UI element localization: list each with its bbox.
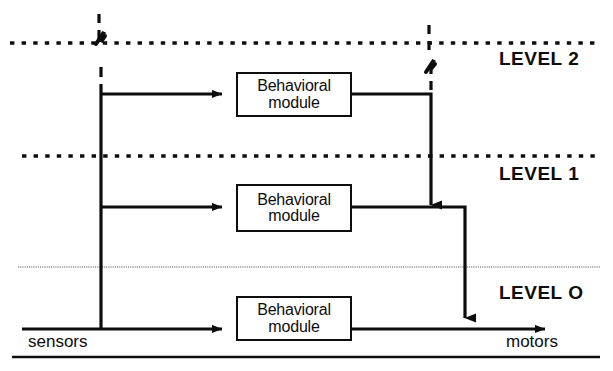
level-0-label: LEVEL O [499, 282, 583, 304]
module-label-line2: module [268, 95, 319, 111]
sensor-bus [22, 94, 222, 329]
sensors-label: sensors [28, 332, 88, 352]
module-label-line1: Behavioral [257, 192, 331, 208]
sensor-bus-continuation-icon [96, 14, 105, 94]
module-label-line1: Behavioral [257, 302, 331, 318]
motors-label: motors [506, 332, 558, 352]
module-label-line2: module [268, 208, 319, 224]
level-1-label: LEVEL 1 [499, 163, 579, 185]
output-level-2-path [352, 94, 431, 205]
module-label-line1: Behavioral [257, 78, 331, 94]
output-level-1-path [352, 207, 465, 318]
module-label-line2: module [268, 319, 319, 335]
level-2-label: LEVEL 2 [499, 48, 579, 70]
behavioral-module-level-2[interactable]: Behavioral module [236, 72, 352, 117]
behavioral-module-level-1[interactable]: Behavioral module [236, 184, 352, 232]
level-2-output-continuation-icon [426, 22, 435, 90]
behavioral-module-level-0[interactable]: Behavioral module [236, 296, 352, 341]
diagram-canvas: Behavioral module Behavioral module Beha… [0, 0, 613, 371]
